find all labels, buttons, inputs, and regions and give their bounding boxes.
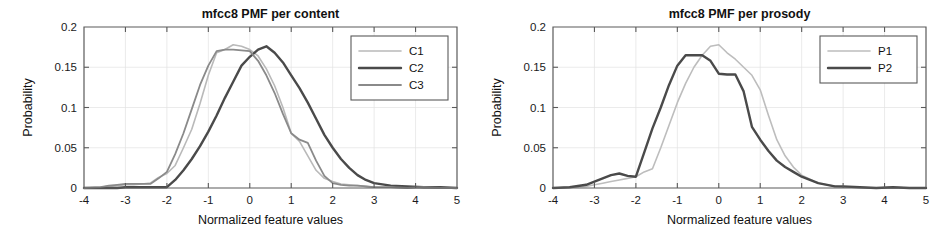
figure-container: mfcc8 PMF per content-4-3-2-101234500.05… xyxy=(0,0,939,247)
x-axis-label: Normalized feature values xyxy=(667,213,812,227)
x-tick-label: 5 xyxy=(454,194,460,206)
chart-legend: C1C2C3 xyxy=(351,36,448,100)
x-tick-label: 4 xyxy=(412,194,419,206)
x-tick-label: -3 xyxy=(120,194,130,206)
chart-panel-content: mfcc8 PMF per content-4-3-2-101234500.05… xyxy=(0,0,470,247)
y-tick-label: 0.05 xyxy=(524,142,546,154)
y-tick-label: 0.2 xyxy=(530,21,546,33)
chart-svg-prosody: mfcc8 PMF per prosody-4-3-2-101234500.05… xyxy=(469,0,939,247)
y-tick-label: 0.1 xyxy=(61,102,77,114)
y-tick-label: 0 xyxy=(540,182,546,194)
x-tick-label: -3 xyxy=(589,194,599,206)
legend-box xyxy=(820,36,917,83)
x-tick-label: 4 xyxy=(881,194,888,206)
x-tick-label: 1 xyxy=(757,194,763,206)
y-axis-label: Probability xyxy=(21,78,35,137)
x-tick-label: 3 xyxy=(371,194,377,206)
legend-label-c3: C3 xyxy=(409,79,424,91)
chart-legend: P1P2 xyxy=(820,36,917,83)
x-tick-label: -1 xyxy=(672,194,682,206)
x-tick-label: 0 xyxy=(247,194,253,206)
legend-label-c1: C1 xyxy=(409,45,424,57)
x-axis-label: Normalized feature values xyxy=(198,213,343,227)
y-tick-label: 0 xyxy=(71,182,77,194)
x-tick-label: 2 xyxy=(329,194,335,206)
legend-label-p1: P1 xyxy=(878,45,892,57)
x-tick-label: -2 xyxy=(631,194,641,206)
legend-label-c2: C2 xyxy=(409,62,424,74)
y-tick-label: 0.15 xyxy=(55,61,77,73)
chart-title: mfcc8 PMF per content xyxy=(202,7,340,21)
legend-label-p2: P2 xyxy=(878,62,892,74)
x-tick-label: -4 xyxy=(79,194,90,206)
x-tick-label: 3 xyxy=(840,194,846,206)
x-tick-label: 2 xyxy=(798,194,804,206)
x-tick-label: -2 xyxy=(162,194,172,206)
y-tick-label: 0.1 xyxy=(530,102,546,114)
y-tick-label: 0.05 xyxy=(55,142,77,154)
x-tick-label: -4 xyxy=(548,194,559,206)
x-tick-label: 1 xyxy=(288,194,294,206)
x-tick-label: -1 xyxy=(203,194,213,206)
chart-panel-prosody: mfcc8 PMF per prosody-4-3-2-101234500.05… xyxy=(469,0,939,247)
x-tick-label: 5 xyxy=(923,194,929,206)
y-tick-label: 0.2 xyxy=(61,21,77,33)
chart-title: mfcc8 PMF per prosody xyxy=(669,7,811,21)
y-axis-label: Probability xyxy=(490,78,504,137)
chart-svg-content: mfcc8 PMF per content-4-3-2-101234500.05… xyxy=(0,0,470,247)
y-tick-label: 0.15 xyxy=(524,61,546,73)
x-tick-label: 0 xyxy=(716,194,722,206)
